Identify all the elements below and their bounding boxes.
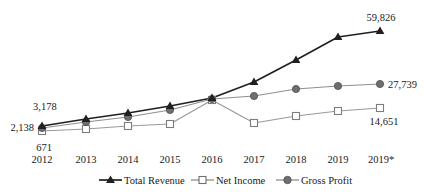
revenue-line-chart: 3,178 2,138 671 59,826 27,739 14,651 201… <box>0 0 424 195</box>
x-tick-label-0: 2012 <box>32 154 53 165</box>
x-tick-label-4: 2016 <box>202 154 223 165</box>
legend-marker-square-icon <box>199 177 206 184</box>
legend-item-gross-profit[interactable]: Gross Profit <box>276 175 352 186</box>
value-label-gross-profit-2019p: 27,739 <box>388 79 417 90</box>
x-tick-label-2: 2014 <box>118 154 140 165</box>
chart-legend: Total Revenue Net Income Gross Profit <box>99 175 352 186</box>
series-markers-total-revenue <box>38 27 385 130</box>
legend-label-net-income: Net Income <box>216 175 266 186</box>
x-tick-label-3: 2015 <box>160 154 181 165</box>
value-label-net-income-2019p: 14,651 <box>370 116 399 127</box>
series-line-net-income <box>42 100 380 131</box>
legend-marker-circle-icon <box>284 176 291 183</box>
x-tick-label-8: 2019* <box>368 154 394 165</box>
legend-item-net-income[interactable]: Net Income <box>191 175 266 186</box>
value-label-net-income-2012: 671 <box>36 142 52 153</box>
x-tick-label-7: 2019 <box>328 154 349 165</box>
value-label-total-revenue-2012: 3,178 <box>33 101 57 112</box>
value-label-gross-profit-2012: 2,138 <box>10 122 34 133</box>
series-markers-gross-profit <box>38 80 383 131</box>
legend-item-total-revenue[interactable]: Total Revenue <box>99 175 185 186</box>
series-line-gross-profit <box>42 84 380 128</box>
legend-label-gross-profit: Gross Profit <box>301 175 352 186</box>
x-tick-label-5: 2017 <box>244 154 265 165</box>
chart-plot-area: 3,178 2,138 671 59,826 27,739 14,651 201… <box>0 0 424 195</box>
legend-label-total-revenue: Total Revenue <box>124 175 185 186</box>
value-label-total-revenue-2019p: 59,826 <box>367 12 396 23</box>
x-tick-label-6: 2018 <box>286 154 307 165</box>
x-tick-label-1: 2013 <box>76 154 97 165</box>
